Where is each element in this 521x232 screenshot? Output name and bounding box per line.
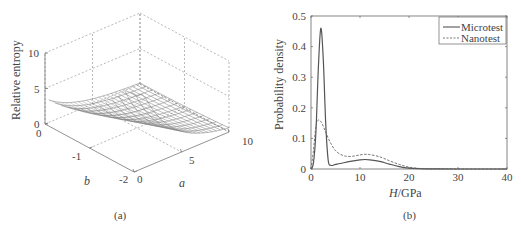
surface-mesh xyxy=(49,83,229,133)
surface-plot: 10 5 0 0 -1 -2 0 5 10 b a Relative entro… xyxy=(0,0,260,232)
panel-b-line-chart: 0 0.1 0.2 0.3 0.4 0.5 0 10 20 30 40 Micr… xyxy=(260,0,521,232)
mesh-line-a xyxy=(107,95,196,133)
panel-a-surface-chart: 10 5 0 0 -1 -2 0 5 10 b a Relative entro… xyxy=(0,0,260,232)
b-tick-minus2: -2 xyxy=(119,173,128,185)
mesh-line-b xyxy=(55,86,146,105)
side-wall-grid xyxy=(140,13,229,61)
y-tick-0.1: 0.1 xyxy=(292,132,306,144)
series-nanotest xyxy=(311,120,507,169)
caption-a: (a) xyxy=(114,209,127,222)
z-tick-10: 10 xyxy=(28,47,40,59)
line-plot: 0 0.1 0.2 0.3 0.4 0.5 0 10 20 30 40 Micr… xyxy=(260,0,521,232)
axis-box-3d xyxy=(45,13,229,152)
z-axis-label: Relative entropy xyxy=(9,40,23,120)
x-tick-10: 10 xyxy=(355,171,367,183)
z-tick-5: 5 xyxy=(34,83,40,95)
y-axis-label: Probability density xyxy=(272,39,286,130)
caption-b: (b) xyxy=(403,209,416,222)
x-tick-30: 30 xyxy=(453,171,465,183)
x-tick-20: 20 xyxy=(404,171,416,183)
x-tick-40: 40 xyxy=(502,171,514,183)
series-lines xyxy=(311,28,507,169)
y-tick-labels: 0 0.1 0.2 0.3 0.4 0.5 xyxy=(292,10,306,175)
legend-label-nanotest: Nanotest xyxy=(461,32,500,44)
y-tick-0.2: 0.2 xyxy=(292,102,306,114)
y-tick-0: 0 xyxy=(301,163,307,175)
mesh-line-b xyxy=(49,83,140,103)
x-axis-label-unit: /GPa xyxy=(398,186,423,200)
series-microtest xyxy=(311,28,507,169)
x-axis-label: H/GPa xyxy=(388,186,422,200)
y-tick-0.5: 0.5 xyxy=(292,10,306,22)
y-tick-0.3: 0.3 xyxy=(292,71,306,83)
a-tick-10: 10 xyxy=(242,135,254,147)
y-tick-0.4: 0.4 xyxy=(292,40,306,52)
b-axis-label: b xyxy=(84,174,90,188)
legend: Microtest Nanotest xyxy=(439,17,506,44)
a-tick-0: 0 xyxy=(137,173,143,185)
x-tick-0: 0 xyxy=(308,171,314,183)
x-tick-labels: 0 10 20 30 40 xyxy=(308,171,513,183)
b-tick-0: 0 xyxy=(36,127,42,139)
a-axis-label: a xyxy=(179,176,185,190)
b-tick-mark xyxy=(134,171,137,172)
b-tick-minus1: -1 xyxy=(72,150,81,162)
b-tick-mark xyxy=(90,147,93,148)
a-tick-5: 5 xyxy=(189,154,195,166)
